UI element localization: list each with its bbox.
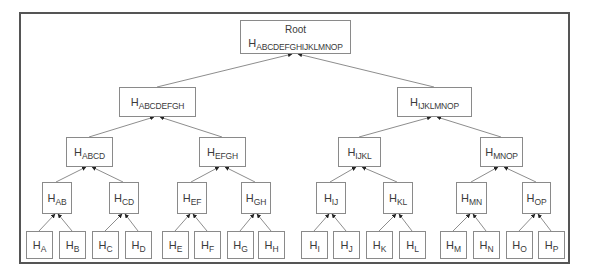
leaf-h-k: HK (366, 231, 393, 259)
hash-prefix: H (324, 192, 332, 205)
node-h-ef: HEF (177, 182, 207, 214)
edge (191, 167, 219, 182)
edge (359, 117, 431, 137)
hash-prefix: H (131, 96, 139, 109)
hash-subscript: O (520, 245, 526, 255)
edge (453, 214, 470, 231)
leaf-h-j: HJ (333, 231, 360, 259)
hash-subscript: EF (191, 198, 201, 208)
leaf-h-c: HC (92, 231, 119, 259)
node-h-abcd: HABCD (66, 137, 113, 167)
leaf-h-o: HO (506, 231, 533, 259)
leaf-h-i: HI (301, 231, 328, 259)
hash-subscript: IJKL (355, 152, 371, 162)
hash-prefix: H (169, 239, 177, 252)
edge (240, 214, 254, 231)
hash-prefix: H (410, 96, 418, 109)
hash-subscript: AB (56, 198, 67, 208)
node-h-kl: HKL (383, 182, 413, 214)
hash-subscript: P (553, 245, 558, 255)
node-h-ijklmnop: HIJKLMNOP (397, 87, 472, 117)
leaf-h-b: HB (59, 231, 86, 259)
hash-prefix: H (373, 239, 381, 252)
edge (471, 167, 498, 182)
leaf-h-g: HG (227, 231, 254, 259)
edge (437, 117, 501, 137)
leaf-h-f: HF (194, 231, 221, 259)
hash-prefix: H (248, 37, 256, 50)
hash-subscript: B (74, 245, 79, 255)
hash-subscript: ABCD (82, 152, 105, 162)
node-h-mn: HMN (456, 182, 487, 214)
hash-prefix: H (347, 146, 355, 159)
hash-subscript: EFGH (215, 152, 238, 162)
hash-prefix: H (265, 239, 273, 252)
hash-subscript: ABCDEFGH (139, 102, 185, 112)
leaf-h-d: HD (125, 231, 152, 259)
hash-prefix: H (132, 239, 140, 252)
edge (56, 167, 86, 182)
edge (175, 214, 190, 231)
hash-subscript: C (107, 245, 113, 255)
hash-prefix: H (480, 239, 488, 252)
hash-prefix: H (33, 239, 41, 252)
node-h-abcdefgh: HABCDEFGH (119, 87, 196, 117)
hash-prefix: H (48, 192, 56, 205)
edge (314, 214, 329, 231)
edge (473, 214, 486, 231)
node-h-efgh: HEFGH (199, 137, 246, 167)
edge (362, 167, 397, 182)
leaf-h-l: HL (399, 231, 426, 259)
hash-subscript: L (414, 245, 419, 255)
hash-subscript: GH (254, 198, 266, 208)
hash-subscript: A (41, 245, 46, 255)
edge (105, 214, 122, 231)
leaf-h-m: HM (440, 231, 467, 259)
hash-prefix: H (66, 239, 74, 252)
edge (399, 214, 412, 231)
hash-prefix: H (246, 192, 254, 205)
node-h-cd: HCD (109, 182, 139, 214)
edge (257, 214, 271, 231)
node-h-ab: HAB (42, 182, 72, 214)
leaf-h-a: HA (26, 231, 53, 259)
edge (193, 214, 207, 231)
hash-prefix: H (461, 192, 469, 205)
hash-subscript: MNOP (493, 152, 518, 162)
root-label: Root (285, 24, 306, 36)
node-h-ij: HIJ (316, 182, 346, 214)
hash-prefix: H (389, 192, 397, 205)
edge (125, 214, 138, 231)
hash-subscript: ABCDEFGHIJKLMNOP (256, 43, 343, 53)
hash-prefix: H (74, 146, 82, 159)
hash-subscript: M (454, 245, 461, 255)
hash-prefix: H (99, 239, 107, 252)
edge (39, 214, 55, 231)
edge (157, 54, 292, 87)
edge (160, 117, 222, 137)
edge (58, 214, 72, 231)
hash-prefix: H (406, 239, 414, 252)
hash-subscript: MN (469, 198, 482, 208)
hash-prefix: H (527, 192, 535, 205)
hash-subscript: OP (535, 198, 547, 208)
edge (379, 214, 396, 231)
hash-subscript: K (381, 245, 386, 255)
edge (519, 214, 535, 231)
node-h-gh: HGH (241, 182, 271, 214)
hash-subscript: J (348, 245, 352, 255)
hash-subscript: D (140, 245, 146, 255)
hash-subscript: G (241, 245, 247, 255)
leaf-h-n: HN (473, 231, 500, 259)
hash-prefix: H (545, 239, 553, 252)
hash-subscript: CD (122, 198, 134, 208)
hash-subscript: IJKLMNOP (418, 102, 459, 112)
hash-prefix: H (114, 192, 122, 205)
edge (504, 167, 536, 182)
node-h-op: HOP (522, 182, 551, 214)
leaf-h-h: HH (258, 231, 285, 259)
hash-subscript: KL (397, 198, 407, 208)
hash-subscript: I (317, 245, 319, 255)
node-h-mnop: HMNOP (480, 137, 523, 167)
edge (89, 117, 154, 137)
